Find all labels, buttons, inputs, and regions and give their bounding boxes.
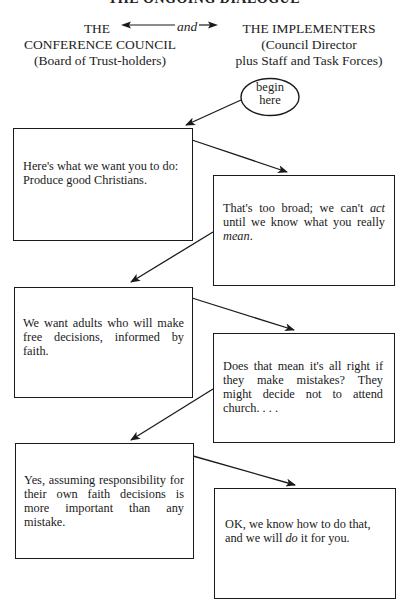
dialogue-box-implementers-1: That's too broad; we can't act until we … (213, 175, 395, 286)
dialogue-text: We want adults who will make free decisi… (23, 316, 184, 358)
arrow-box1-to-box2 (192, 140, 287, 172)
dialogue-text-part: . (250, 229, 253, 243)
dialogue-box-council-2: We want adults who will make free decisi… (14, 287, 193, 398)
dialogue-emphasis: do (285, 531, 297, 545)
begin-here-label: begin here (241, 81, 299, 107)
dialogue-emphasis: act (370, 201, 385, 215)
dialogue-text: Here's what we want you to do: Produce g… (23, 159, 188, 187)
dialogue-box-council-3: Yes, assuming responsibility for their o… (15, 443, 194, 559)
dialogue-box-implementers-3: OK, we know how to do that, and we will … (214, 488, 396, 599)
dialogue-text-part: We want adults who will make free decisi… (23, 316, 184, 358)
dialogue-text: Does that mean it's all right if they ma… (223, 359, 383, 415)
dialogue-text-part: Here's what we want you to do: Produce g… (23, 159, 178, 187)
dialogue-text: That's too broad; we can't act until we … (223, 201, 385, 243)
dialogue-text: OK, we know how to do that, and we will … (225, 517, 390, 545)
header-double-arrow-icon (121, 22, 218, 29)
dialogue-text-part: it for you. (298, 531, 350, 545)
dialogue-box-implementers-2: Does that mean it's all right if they ma… (213, 333, 395, 443)
dialogue-text-part: Does that mean it's all right if they ma… (223, 359, 383, 415)
arrow-box3-to-box4 (192, 298, 294, 330)
arrow-box5-to-box6 (193, 456, 295, 485)
dialogue-text-part: Yes, assuming responsibility for their o… (24, 473, 184, 529)
dialogue-box-council-1: Here's what we want you to do: Produce g… (13, 128, 193, 241)
arrow-start-to-box1 (186, 100, 241, 125)
dialogue-text-part: until we know what you really (223, 215, 385, 229)
dialogue-emphasis: mean (223, 229, 250, 243)
here-label: here (241, 94, 299, 107)
dialogue-text-part: That's too broad; we can't (223, 201, 370, 215)
dialogue-text: Yes, assuming responsibility for their o… (24, 473, 184, 529)
